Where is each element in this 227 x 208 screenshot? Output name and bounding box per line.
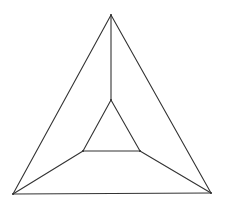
edge-outer-left-outer-right xyxy=(13,193,211,194)
vertex-outer-top xyxy=(110,14,112,16)
triangle-graph-diagram xyxy=(0,0,227,208)
vertex-inner-right xyxy=(139,150,141,152)
edge-outer-right-inner-right xyxy=(140,151,211,193)
vertex-inner-top xyxy=(110,99,112,101)
edge-outer-left-inner-left xyxy=(13,151,83,194)
edge-inner-top-inner-right xyxy=(111,100,140,151)
vertex-outer-right xyxy=(210,192,212,194)
edge-outer-top-outer-right xyxy=(111,15,211,193)
vertex-inner-left xyxy=(82,150,84,152)
vertex-outer-left xyxy=(12,193,14,195)
edges-group xyxy=(13,15,211,194)
edge-outer-top-outer-left xyxy=(13,15,111,194)
edge-inner-top-inner-left xyxy=(83,100,111,151)
vertices-group xyxy=(12,14,212,195)
